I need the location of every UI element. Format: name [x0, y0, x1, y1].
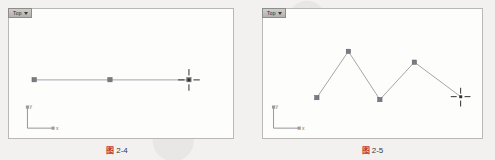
axis-tripod-gizmo: y x	[26, 104, 59, 131]
vertex-marker	[378, 97, 382, 101]
vertex-marker	[346, 49, 350, 53]
caption-cjk-label: 图	[106, 146, 114, 156]
scene-right: y x	[263, 9, 482, 138]
vertex-marker	[108, 78, 112, 82]
axis-label-y: y	[29, 104, 32, 109]
axis-label-y: y	[276, 104, 279, 109]
scene-left: y x	[9, 9, 233, 138]
caption-cjk-label: 图	[362, 146, 370, 156]
vertex-marker	[315, 95, 319, 99]
spline-straight-line[interactable]	[32, 78, 191, 82]
axis-tripod-gizmo: y x	[272, 104, 305, 131]
axis-label-x: x	[302, 126, 305, 131]
viewport-top-right[interactable]: Top	[262, 8, 483, 139]
caption-number: 2-5	[372, 146, 384, 156]
viewport-top-left[interactable]: Top	[8, 8, 234, 139]
vertex-marker	[32, 78, 36, 82]
crosshair-cursor	[178, 69, 200, 91]
crosshair-cursor	[451, 88, 471, 107]
figure-caption-right: 图 2-5	[262, 146, 483, 156]
spline-zigzag[interactable]	[315, 49, 461, 102]
vertex-marker	[412, 60, 416, 64]
figure-caption-left: 图 2-4	[0, 146, 234, 156]
caption-number: 2-4	[116, 146, 128, 156]
axis-label-x: x	[56, 126, 59, 131]
